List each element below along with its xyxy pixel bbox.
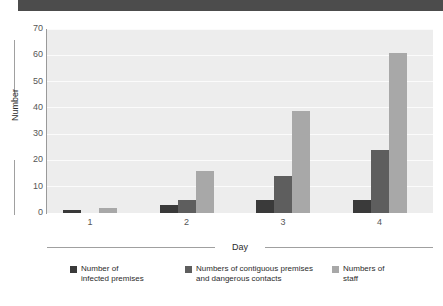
x-axis-title-group: Day [47,240,433,254]
legend-label: Numbers of contiguous premisesand danger… [196,264,313,284]
bar [160,205,178,213]
y-axis-tick-label: 10 [19,182,43,191]
gridline [47,107,433,108]
bar [353,200,371,213]
legend-label: Number ofinfected premises [81,264,144,284]
y-axis-tick-label: 40 [19,103,43,112]
y-axis-title-rule-bottom [14,160,15,215]
legend-label: Numbers ofstaff [343,264,384,284]
gridline [47,134,433,135]
legend-swatch-icon [332,266,339,273]
y-axis-tick-label: 20 [19,155,43,164]
x-axis-tick-label: 1 [70,216,110,228]
x-axis-tick-label: 3 [263,216,303,228]
bar [99,208,117,213]
bar [389,53,407,213]
bar [63,210,81,213]
y-axis-tick-label: 70 [19,24,43,33]
y-axis-tick-label: 0 [19,208,43,217]
y-axis-tick-label: 60 [19,50,43,59]
legend-item[interactable]: Numbers of contiguous premisesand danger… [185,264,335,284]
legend-swatch-icon [70,266,77,273]
bar [256,200,274,213]
bar [274,176,292,213]
gridline [47,55,433,56]
bar [178,200,196,213]
x-axis-tick-label: 2 [167,216,207,228]
bar [196,171,214,213]
y-axis-tick-label: 30 [19,129,43,138]
bar [292,111,310,214]
legend-item[interactable]: Number ofinfected premises [70,264,180,284]
chart-legend: Number ofinfected premisesNumbers of con… [70,264,443,294]
gridline [47,81,433,82]
x-axis-title-rule-left [47,247,215,248]
legend-item[interactable]: Numbers ofstaff [332,264,442,284]
legend-swatch-icon [185,266,192,273]
x-axis-title-text: Day [215,240,265,254]
bar [371,150,389,213]
gridline [47,29,433,30]
y-axis-tick-labels: 010203040506070 [17,29,43,213]
x-axis-tick-label: 4 [360,216,400,228]
y-axis-tick-label: 50 [19,77,43,86]
x-axis-tick-labels: 1234 [47,216,433,230]
plot-area [47,29,433,213]
top-banner-bar [18,0,443,11]
x-axis-title-rule-right [265,247,433,248]
plot-frame [47,29,433,213]
bar-chart-figure: Number 010203040506070 1234 Day Number o… [0,0,443,306]
